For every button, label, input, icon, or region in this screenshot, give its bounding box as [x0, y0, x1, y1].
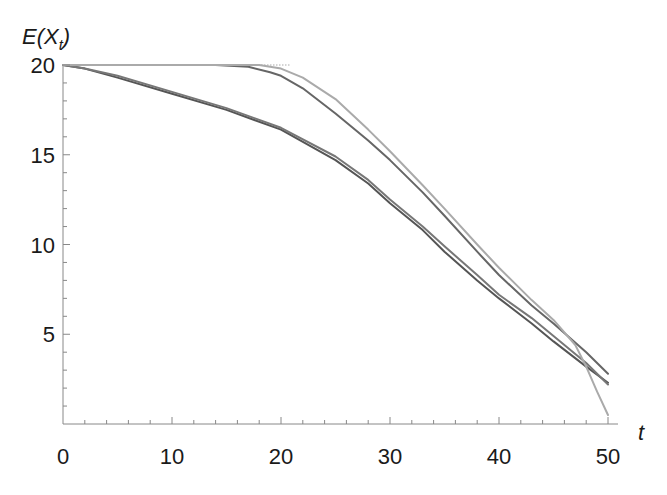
x-axis-title: t — [638, 420, 645, 445]
plot-area — [63, 65, 608, 415]
y-ticks — [63, 65, 70, 406]
axes: 01020304050 5101520 — [31, 53, 621, 469]
y-tick-label: 10 — [31, 233, 55, 258]
x-tick-label: 20 — [269, 444, 293, 469]
x-tick-label: 30 — [378, 444, 402, 469]
line-chart: 01020304050 5101520 E(Xt) t — [0, 0, 667, 495]
x-tick-labels: 01020304050 — [57, 444, 620, 469]
y-tick-labels: 5101520 — [31, 53, 55, 347]
x-tick-label: 50 — [596, 444, 620, 469]
y-axis-title: E(Xt) — [22, 24, 70, 53]
y-tick-label: 20 — [31, 53, 55, 78]
y-tick-label: 15 — [31, 143, 55, 168]
x-tick-label: 0 — [57, 444, 69, 469]
x-tick-label: 40 — [487, 444, 511, 469]
x-ticks — [85, 417, 608, 424]
series-line-upper-curve-c — [63, 65, 608, 374]
y-tick-label: 5 — [43, 322, 55, 347]
x-tick-label: 10 — [160, 444, 184, 469]
series-line-upper-curve-d — [63, 65, 608, 415]
